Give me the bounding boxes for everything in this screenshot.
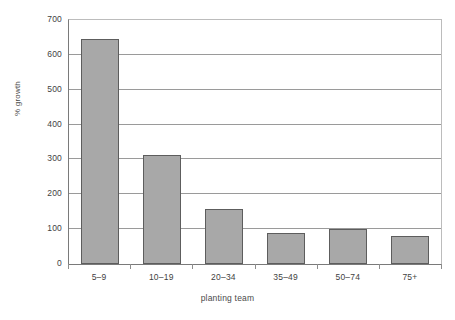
x-axis-category-labels: 5–910–1920–3435–4950–7475+: [68, 272, 441, 282]
x-axis-tick-mark: [255, 264, 256, 269]
x-axis-tick-mark: [379, 264, 380, 269]
bar[interactable]: [267, 233, 304, 264]
y-axis-tick-labels: 0100200300400500600700: [26, 19, 62, 263]
x-axis-category-label: 10–19: [130, 272, 192, 282]
y-axis-tick-label: 700: [26, 15, 62, 24]
bar-slot: [379, 20, 441, 264]
bar-slot: [193, 20, 255, 264]
bar-slot: [69, 20, 131, 264]
x-axis-category-label: 50–74: [317, 272, 379, 282]
y-axis-title: % growth: [13, 102, 22, 116]
bar-chart-figure: % growth 0100200300400500600700 5–910–19…: [0, 0, 455, 320]
y-axis-tick-label: 600: [26, 50, 62, 59]
x-axis-category-label: 5–9: [68, 272, 130, 282]
bar-slot: [255, 20, 317, 264]
bar[interactable]: [329, 229, 366, 264]
cropped-caption-remnant: [0, 0, 455, 7]
x-axis-tick-mark: [68, 264, 69, 269]
y-axis-tick-label: 0: [26, 259, 62, 268]
y-axis-tick-label: 200: [26, 189, 62, 198]
x-axis-tick-mark: [441, 264, 442, 269]
x-axis-tick-mark: [192, 264, 193, 269]
bar[interactable]: [205, 209, 242, 264]
y-axis-tick-label: 400: [26, 119, 62, 128]
bars-layer: [69, 20, 441, 264]
x-axis-tick-marks: [68, 264, 441, 269]
x-axis-title: planting team: [0, 293, 455, 303]
y-axis-tick-label: 300: [26, 154, 62, 163]
bar[interactable]: [143, 155, 180, 264]
bar[interactable]: [391, 236, 428, 264]
x-axis-category-label: 35–49: [255, 272, 317, 282]
x-axis-tick-mark: [317, 264, 318, 269]
x-axis-category-label: 75+: [379, 272, 441, 282]
bar-slot: [317, 20, 379, 264]
y-axis-tick-label: 100: [26, 224, 62, 233]
y-axis-tick-label: 500: [26, 84, 62, 93]
bar[interactable]: [81, 39, 118, 264]
x-axis-tick-mark: [130, 264, 131, 269]
bar-slot: [131, 20, 193, 264]
x-axis-category-label: 20–34: [192, 272, 254, 282]
plot-area: [68, 19, 442, 265]
